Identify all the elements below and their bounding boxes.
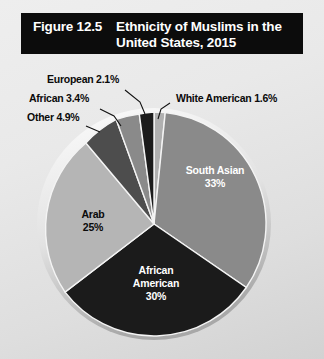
figure-title-label: Ethnicity of Muslims in the United State… bbox=[102, 17, 303, 51]
figure-number-label: Figure 12.5 bbox=[21, 17, 102, 34]
slice-label-african-american-name2: American bbox=[108, 277, 204, 290]
slice-label-south-asian-name: South Asian bbox=[172, 164, 258, 177]
slice-label-south-asian-value: 33% bbox=[172, 177, 258, 190]
slice-label-african-american: African American 30% bbox=[108, 264, 204, 303]
callout-label-white-american: White American 1.6% bbox=[176, 92, 277, 104]
pie-chart-area: European 2.1% African 3.4% Other 4.9% Wh… bbox=[0, 56, 324, 359]
slice-label-south-asian: South Asian 33% bbox=[172, 164, 258, 190]
slice-label-african-american-value: 30% bbox=[108, 290, 204, 303]
callout-label-other: Other 4.9% bbox=[27, 111, 79, 123]
slice-label-african-american-name: African bbox=[108, 264, 204, 277]
callout-label-african: African 3.4% bbox=[29, 92, 89, 104]
figure-title-bar: Figure 12.5 Ethnicity of Muslims in the … bbox=[21, 13, 303, 54]
slice-label-arab: Arab 25% bbox=[55, 208, 131, 234]
figure-panel: Figure 12.5 Ethnicity of Muslims in the … bbox=[0, 0, 324, 359]
slice-label-arab-value: 25% bbox=[55, 221, 131, 234]
slice-label-arab-name: Arab bbox=[55, 208, 131, 221]
callout-label-european: European 2.1% bbox=[47, 73, 119, 85]
